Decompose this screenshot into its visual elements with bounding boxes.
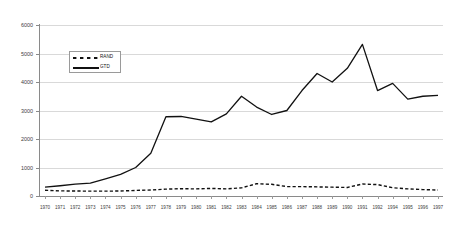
- x-axis-tick-mark: [90, 196, 91, 199]
- x-axis-tick-mark: [60, 196, 61, 199]
- x-axis-tick-mark: [242, 196, 243, 199]
- y-axis-tick-label: 4000: [3, 79, 33, 85]
- x-axis-tick-mark: [347, 196, 348, 199]
- legend-solid-line-icon: [73, 67, 99, 69]
- x-axis-tick-mark: [332, 196, 333, 199]
- x-axis-tick-mark: [302, 196, 303, 199]
- x-axis-tick-label: 1970: [37, 205, 53, 210]
- x-axis-tick-mark: [75, 196, 76, 199]
- x-axis-tick-mark: [272, 196, 273, 199]
- line-chart: 0100020003000400050006000 19701971197219…: [0, 0, 460, 233]
- x-axis-tick-mark: [45, 196, 46, 199]
- x-axis-tick-label: 1985: [264, 205, 280, 210]
- y-axis-tick-label: 6000: [3, 22, 33, 28]
- chart-legend: RAND GTD: [69, 51, 121, 73]
- x-axis-tick-mark: [105, 196, 106, 199]
- y-axis-tick-label: 2000: [3, 136, 33, 142]
- x-axis-tick-label: 1996: [415, 205, 431, 210]
- y-axis-tick-label: 3000: [3, 108, 33, 114]
- y-axis-tick-mark: [36, 82, 39, 83]
- legend-dashed-line-icon: [73, 57, 99, 59]
- x-axis-tick-mark: [438, 196, 439, 199]
- y-axis-tick-mark: [36, 139, 39, 140]
- y-axis-tick-label: 0: [3, 193, 33, 199]
- x-axis-tick-label: 1983: [234, 205, 250, 210]
- y-axis-tick-mark: [36, 54, 39, 55]
- x-axis-tick-label: 1987: [294, 205, 310, 210]
- x-axis-tick-label: 1974: [97, 205, 113, 210]
- x-axis-tick-mark: [136, 196, 137, 199]
- x-axis-tick-mark: [423, 196, 424, 199]
- x-axis-tick-mark: [211, 196, 212, 199]
- y-axis-tick-label: 1000: [3, 165, 33, 171]
- x-axis-tick-label: 1978: [158, 205, 174, 210]
- x-axis-tick-label: 1991: [354, 205, 370, 210]
- x-axis-tick-label: 1976: [128, 205, 144, 210]
- legend-label-gtd: GTD: [100, 64, 110, 69]
- x-axis-tick-label: 1986: [279, 205, 295, 210]
- x-axis-tick-mark: [226, 196, 227, 199]
- x-axis-tick-mark: [287, 196, 288, 199]
- x-axis-tick-label: 1982: [218, 205, 234, 210]
- legend-entry-gtd: GTD: [70, 62, 122, 73]
- x-axis-tick-label: 1988: [309, 205, 325, 210]
- series-line-rand: [45, 184, 438, 191]
- x-axis-tick-label: 1980: [188, 205, 204, 210]
- x-axis-tick-mark: [196, 196, 197, 199]
- x-axis-tick-label: 1981: [203, 205, 219, 210]
- x-axis-tick-label: 1989: [324, 205, 340, 210]
- x-axis-tick-label: 1971: [52, 205, 68, 210]
- y-axis-tick-mark: [36, 25, 39, 26]
- x-axis-tick-mark: [166, 196, 167, 199]
- x-axis-tick-label: 1972: [67, 205, 83, 210]
- x-axis-tick-mark: [393, 196, 394, 199]
- x-axis-tick-label: 1997: [430, 205, 446, 210]
- x-axis-tick-label: 1994: [385, 205, 401, 210]
- x-axis-tick-label: 1984: [249, 205, 265, 210]
- x-axis-tick-mark: [151, 196, 152, 199]
- x-axis-tick-mark: [408, 196, 409, 199]
- y-axis-tick-mark: [36, 196, 39, 197]
- x-axis-tick-label: 1975: [113, 205, 129, 210]
- x-axis-tick-mark: [317, 196, 318, 199]
- x-axis-tick-mark: [378, 196, 379, 199]
- x-axis-tick-mark: [257, 196, 258, 199]
- legend-label-rand: RAND: [100, 54, 113, 59]
- x-axis-tick-label: 1973: [82, 205, 98, 210]
- x-axis-tick-label: 1977: [143, 205, 159, 210]
- x-axis-tick-mark: [181, 196, 182, 199]
- x-axis-tick-label: 1979: [173, 205, 189, 210]
- y-axis-tick-mark: [36, 168, 39, 169]
- y-axis-tick-mark: [36, 111, 39, 112]
- y-axis-tick-label: 5000: [3, 51, 33, 57]
- x-axis-tick-label: 1995: [400, 205, 416, 210]
- x-axis-tick-label: 1990: [339, 205, 355, 210]
- x-axis-tick-mark: [121, 196, 122, 199]
- x-axis-tick-label: 1992: [370, 205, 386, 210]
- x-axis-tick-mark: [362, 196, 363, 199]
